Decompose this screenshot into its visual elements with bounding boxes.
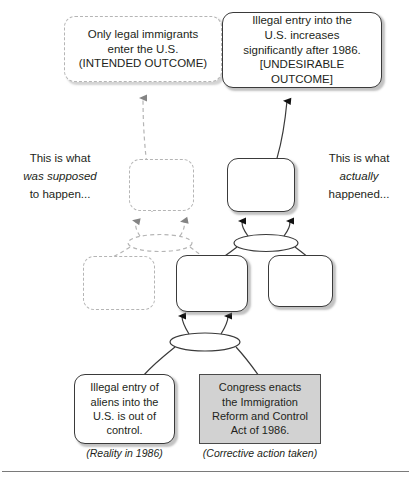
node-undesirable-outcome: Illegal entry into the U.S. increases si… [222,12,382,88]
upper-and-ellipse [234,235,298,252]
node-undesirable-outcome-text: Illegal entry into the U.S. increases si… [223,13,381,88]
node-effect-intermediate-lower-right [268,255,333,307]
edge-ghost-and-left [136,221,140,236]
sidenote-left-line2-italic: was supposed [23,170,97,182]
caption-corrective-action: (Corrective action taken) [195,447,325,460]
lower-and-ellipse [170,333,240,351]
node-effect-intermediate-upper [227,158,295,212]
sidenote-right-line2-italic: actually [340,170,379,182]
sidenote-left-line1: This is what [8,150,112,168]
edge-lower-leg-right [236,347,259,376]
node-ghost-intermediate-upper [129,159,194,211]
sidenote-right-line2: actually [312,168,406,186]
edge-upper-and-left [242,221,248,236]
edge-lower-and-left [182,316,189,334]
edge-upper-and-right [284,221,290,236]
sidenote-left-line2: was supposed [8,168,112,186]
sidenote-right-line1: This is what [312,150,406,168]
sidenote-right-line3: happened... [312,186,406,204]
node-corrective-action-entity: Congress enacts the Immigration Reform a… [199,374,321,444]
node-reality-entity-text: Illegal entry of aliens into the U.S. is… [75,380,174,437]
edge-lower-leg-left [143,347,175,376]
bottom-divider [2,471,409,472]
edge-lower-and-right [221,316,228,334]
node-intended-outcome-text: Only legal immigrants enter the U.S. (IN… [65,27,221,72]
node-corrective-action-entity-text: Congress enacts the Immigration Reform a… [200,380,320,437]
sidenote-left-line3: to happen... [8,186,112,204]
node-reality-entity: Illegal entry of aliens into the U.S. is… [74,374,175,444]
node-intended-outcome: Only legal immigrants enter the U.S. (IN… [64,16,222,82]
current-reality-tree-diagram: Only legal immigrants enter the U.S. (IN… [0,0,411,481]
sidenote-right: This is what actually happened... [312,150,406,203]
node-effect-intermediate-lower-center [176,255,248,312]
edge-ghost-and-right [180,221,184,236]
sidenote-left: This is what was supposed to happen... [8,150,112,203]
dashed-and-ellipse [128,235,192,252]
caption-reality: (Reality in 1986) [74,447,175,460]
node-ghost-intermediate-lower-left [83,256,155,310]
